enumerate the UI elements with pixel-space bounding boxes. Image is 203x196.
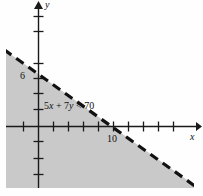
x-axis-label: x [190,131,194,142]
inequality-constant: 70 [84,100,94,111]
inequality-variable-y: y [69,100,73,111]
inequality-plus-sign: + [56,100,62,111]
inequality-relation: < [76,100,82,111]
y-tick-label-6: 6 [20,70,25,81]
inequality-graph-figure: y x 6 10 5x + 7y < 70 [0,0,203,196]
inequality-variable-x: x [49,100,53,111]
inequality-annotation: 5x + 7y < 70 [44,100,94,111]
y-axis-label: y [45,0,49,10]
x-tick-label-10: 10 [107,133,117,144]
graph-canvas [0,0,203,196]
